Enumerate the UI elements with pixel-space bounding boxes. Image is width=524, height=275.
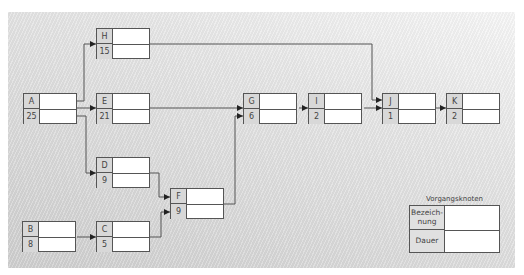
edge-c-to-f bbox=[150, 212, 170, 237]
node-bottom-cell bbox=[325, 109, 361, 124]
node-top-cell bbox=[113, 94, 149, 110]
node-duration: 9 bbox=[171, 204, 187, 219]
node-label: E bbox=[97, 94, 113, 109]
edge-d-to-f bbox=[150, 173, 170, 197]
node-top-cell bbox=[113, 158, 149, 174]
legend-node: Bezeich-nung Dauer bbox=[409, 205, 500, 253]
node-bottom-cell bbox=[113, 237, 149, 252]
node-top-cell bbox=[325, 94, 361, 110]
node-c: C5 bbox=[96, 221, 150, 252]
node-d: D9 bbox=[96, 157, 150, 188]
node-h: H15 bbox=[96, 28, 150, 59]
edge-h-to-j bbox=[150, 44, 382, 100]
node-top-cell bbox=[40, 94, 76, 110]
node-bottom-cell bbox=[187, 204, 223, 219]
node-duration: 2 bbox=[309, 109, 325, 124]
node-j: J1 bbox=[382, 93, 436, 124]
node-b: B8 bbox=[22, 221, 76, 252]
node-top-cell bbox=[113, 222, 149, 238]
node-top-cell bbox=[260, 94, 296, 110]
node-top-cell bbox=[187, 189, 223, 205]
node-label: C bbox=[97, 222, 113, 237]
node-bottom-cell bbox=[39, 237, 75, 252]
node-bottom-cell bbox=[113, 109, 149, 124]
node-label: D bbox=[97, 158, 113, 173]
node-e: E21 bbox=[96, 93, 150, 124]
node-a: A25 bbox=[23, 93, 77, 124]
node-duration: 1 bbox=[383, 109, 399, 124]
node-bottom-cell bbox=[113, 173, 149, 188]
node-label: B bbox=[23, 222, 39, 237]
node-label: I bbox=[309, 94, 325, 109]
node-duration: 5 bbox=[97, 237, 113, 252]
legend-duration-label: Dauer bbox=[410, 230, 445, 252]
legend-title: Vorgangsknoten bbox=[409, 195, 500, 203]
legend-duration-cell bbox=[445, 230, 499, 252]
edge-f-to-g bbox=[224, 116, 243, 204]
node-label: K bbox=[447, 94, 463, 109]
node-bottom-cell bbox=[463, 109, 499, 124]
node-top-cell bbox=[39, 222, 75, 238]
node-top-cell bbox=[113, 29, 149, 45]
node-duration: 25 bbox=[24, 109, 40, 124]
node-k: K2 bbox=[446, 93, 500, 124]
node-duration: 8 bbox=[23, 237, 39, 252]
node-bottom-cell bbox=[399, 109, 435, 124]
node-duration: 2 bbox=[447, 109, 463, 124]
node-bottom-cell bbox=[40, 109, 76, 124]
node-i: I2 bbox=[308, 93, 362, 124]
node-label: J bbox=[383, 94, 399, 109]
legend-name-cell bbox=[445, 206, 499, 231]
node-label: A bbox=[24, 94, 40, 109]
node-g: G6 bbox=[243, 93, 297, 124]
node-f: F9 bbox=[170, 188, 224, 219]
node-duration: 15 bbox=[97, 44, 113, 59]
node-top-cell bbox=[399, 94, 435, 110]
node-label: F bbox=[171, 189, 187, 204]
node-label: H bbox=[97, 29, 113, 44]
node-duration: 21 bbox=[97, 109, 113, 124]
node-label: G bbox=[244, 94, 260, 109]
node-bottom-cell bbox=[260, 109, 296, 124]
node-duration: 6 bbox=[244, 109, 260, 124]
node-top-cell bbox=[463, 94, 499, 110]
edge-a-to-h bbox=[77, 44, 96, 101]
edge-a-to-d bbox=[77, 116, 96, 173]
node-duration: 9 bbox=[97, 173, 113, 188]
legend-name-label: Bezeich-nung bbox=[410, 206, 445, 230]
node-bottom-cell bbox=[113, 44, 149, 59]
